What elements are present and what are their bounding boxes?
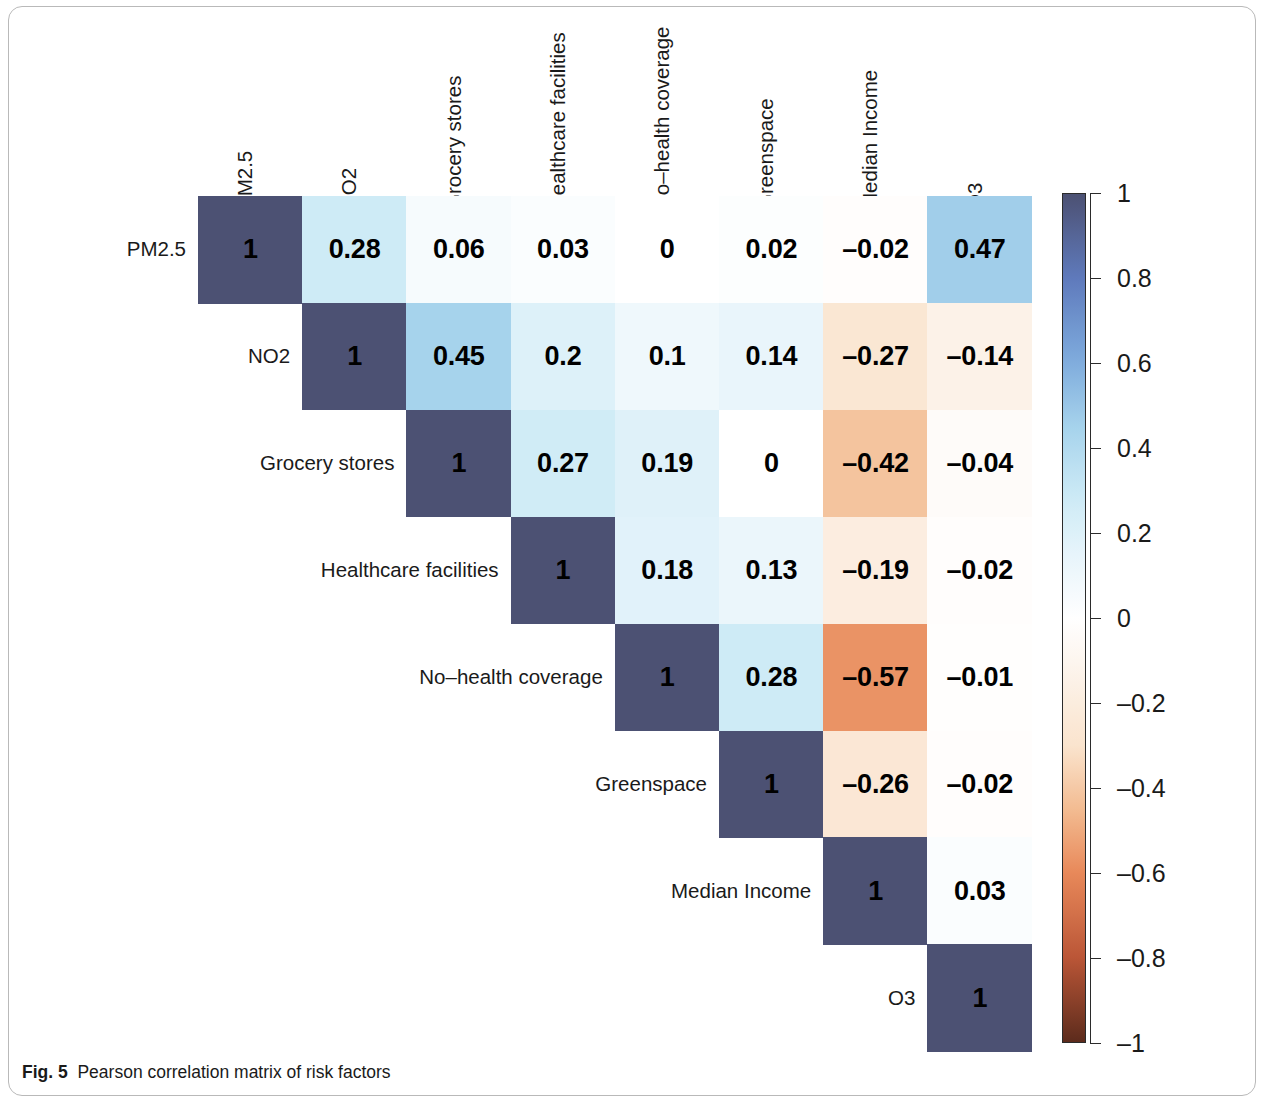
colorbar-tick-label-7: –0.4 xyxy=(1117,774,1166,803)
figure-caption-text: Pearson correlation matrix of risk facto… xyxy=(68,1062,391,1082)
colorbar-gradient xyxy=(1062,193,1086,1043)
colorbar-tick-5 xyxy=(1090,618,1101,619)
colorbar-tick-label-8: –0.6 xyxy=(1117,859,1166,888)
colorbar-tick-label-5: 0 xyxy=(1117,604,1131,633)
figure-container: PM2.5NO2Grocery storesHealthcare facilit… xyxy=(0,0,1265,1105)
colorbar-tick-label-9: –0.8 xyxy=(1117,944,1166,973)
colorbar-tick-4 xyxy=(1090,533,1101,534)
colorbar-tick-label-4: 0.2 xyxy=(1117,519,1152,548)
colorbar-tick-3 xyxy=(1090,448,1101,449)
colorbar-tick-8 xyxy=(1090,873,1101,874)
colorbar-tick-label-10: –1 xyxy=(1117,1029,1145,1058)
colorbar-tick-label-0: 1 xyxy=(1117,179,1131,208)
colorbar-tick-label-3: 0.4 xyxy=(1117,434,1152,463)
colorbar-tick-2 xyxy=(1090,363,1101,364)
colorbar-tick-label-1: 0.8 xyxy=(1117,264,1152,293)
colorbar-tick-7 xyxy=(1090,788,1101,789)
colorbar: 10.80.60.40.20–0.2–0.4–0.6–0.8–1 xyxy=(0,0,1265,1105)
colorbar-tick-1 xyxy=(1090,278,1101,279)
colorbar-tick-0 xyxy=(1090,193,1101,194)
figure-number: Fig. 5 xyxy=(22,1062,68,1082)
figure-caption: Fig. 5 Pearson correlation matrix of ris… xyxy=(22,1062,391,1083)
colorbar-tick-6 xyxy=(1090,703,1101,704)
colorbar-tick-label-6: –0.2 xyxy=(1117,689,1166,718)
colorbar-tick-10 xyxy=(1090,1043,1101,1044)
colorbar-tick-9 xyxy=(1090,958,1101,959)
colorbar-tick-label-2: 0.6 xyxy=(1117,349,1152,378)
